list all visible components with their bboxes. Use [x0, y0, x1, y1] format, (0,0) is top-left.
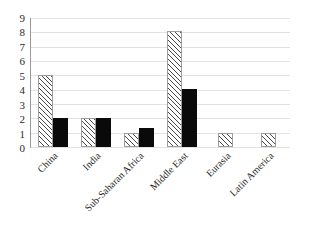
y-axis-tick-label: 6: [20, 56, 26, 67]
bar-group: [247, 18, 290, 147]
bar-series-1: [81, 118, 96, 147]
y-axis-tick-label: 8: [20, 27, 26, 38]
bar-series-1: [167, 31, 182, 147]
bar-series-2: [182, 89, 197, 147]
y-axis-tick-label: 3: [20, 99, 26, 110]
bar-group: [31, 18, 74, 147]
bar-series-1: [261, 133, 276, 147]
bar-chart: 9876543210 ChinaIndiaSub-Saharan AfricaM…: [0, 0, 310, 236]
x-axis-category-label: India: [80, 150, 102, 172]
bar-series-1: [218, 133, 233, 147]
x-axis-category-label: Latin America: [228, 150, 276, 198]
y-axis-tick-label: 4: [20, 85, 26, 96]
y-axis-tick-label: 9: [20, 13, 26, 24]
bar-group: [117, 18, 160, 147]
gridline: [31, 147, 290, 148]
y-axis-tick-label: 2: [20, 114, 26, 125]
bar-series-2: [139, 128, 154, 147]
y-axis-tick-label: 7: [20, 41, 26, 52]
bar-groups: [31, 18, 290, 147]
x-axis-category-label: China: [35, 150, 60, 175]
x-axis-category-label: Eurasia: [204, 150, 233, 179]
bar-series-1: [124, 133, 139, 147]
y-axis-tick-label: 0: [20, 143, 26, 154]
plot-area: [30, 18, 290, 148]
bar-group: [161, 18, 204, 147]
plot-wrapper: 9876543210: [30, 18, 290, 148]
x-axis-category-labels: ChinaIndiaSub-Saharan AfricaMiddle EastE…: [30, 150, 290, 230]
y-axis-tick-label: 1: [20, 128, 26, 139]
bar-group: [204, 18, 247, 147]
bar-series-1: [38, 75, 53, 147]
bar-group: [74, 18, 117, 147]
x-axis-category-label: Middle East: [147, 150, 189, 192]
y-axis-tick-label: 5: [20, 70, 26, 81]
bar-series-2: [53, 118, 68, 147]
bar-series-2: [96, 118, 111, 147]
